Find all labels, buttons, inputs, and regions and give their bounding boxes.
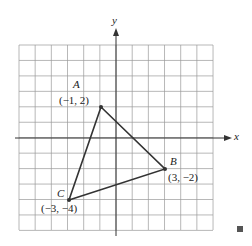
point-b [163,167,167,171]
point-a-coords: (−1, 2) [59,94,89,106]
end-mark [237,226,243,232]
x-axis-arrow [224,135,232,141]
point-a-name: A [73,78,80,90]
point-b-coords: (3, −2) [168,171,198,183]
y-axis-label: y [112,14,117,26]
point-a [99,105,103,109]
point-c-coords: (−3, −4) [41,202,77,214]
y-axis-arrow [113,28,119,36]
point-c-name: C [57,187,64,199]
x-axis-label: x [234,130,239,142]
point-b-name: B [170,155,177,167]
coordinate-plane [0,0,252,246]
